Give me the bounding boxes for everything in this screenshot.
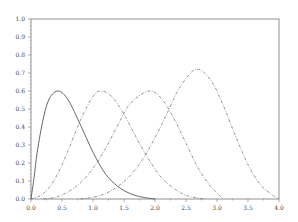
x-tick-label: 1.0 [88,204,98,211]
plot-frame [31,19,279,199]
y-tick-label: 0.3 [15,141,25,148]
y-tick-label: 0.5 [15,105,25,112]
x-tick-label: 3.5 [243,204,253,211]
curve-1-line [31,91,155,199]
x-tick-label: 4.0 [274,204,284,211]
y-tick-label: 0.4 [15,123,25,130]
y-tick-label: 0.0 [15,195,25,202]
y-tick-label: 0.7 [15,69,25,76]
y-tick-label: 0.2 [15,159,25,166]
y-tick-label: 0.1 [15,177,25,184]
x-tick-label: 0.0 [26,204,36,211]
x-tick-label: 2.0 [150,204,160,211]
line-chart: 0.00.51.01.52.02.53.03.54.0 0.00.10.20.3… [0,0,298,222]
x-tick-label: 1.5 [119,204,129,211]
y-tick-label: 0.6 [15,87,25,94]
y-tick-label: 0.8 [15,51,25,58]
x-tick-label: 3.0 [212,204,222,211]
y-tick-label: 1.0 [15,15,25,22]
x-tick-label: 0.5 [57,204,67,211]
x-axis: 0.00.51.01.52.02.53.03.54.0 [26,199,284,211]
curve-2-line [31,91,205,199]
series-group [31,69,279,199]
y-axis: 0.00.10.20.30.40.50.60.70.80.91.0 [15,15,31,202]
y-tick-label: 0.9 [15,33,25,40]
x-tick-label: 2.5 [181,204,191,211]
